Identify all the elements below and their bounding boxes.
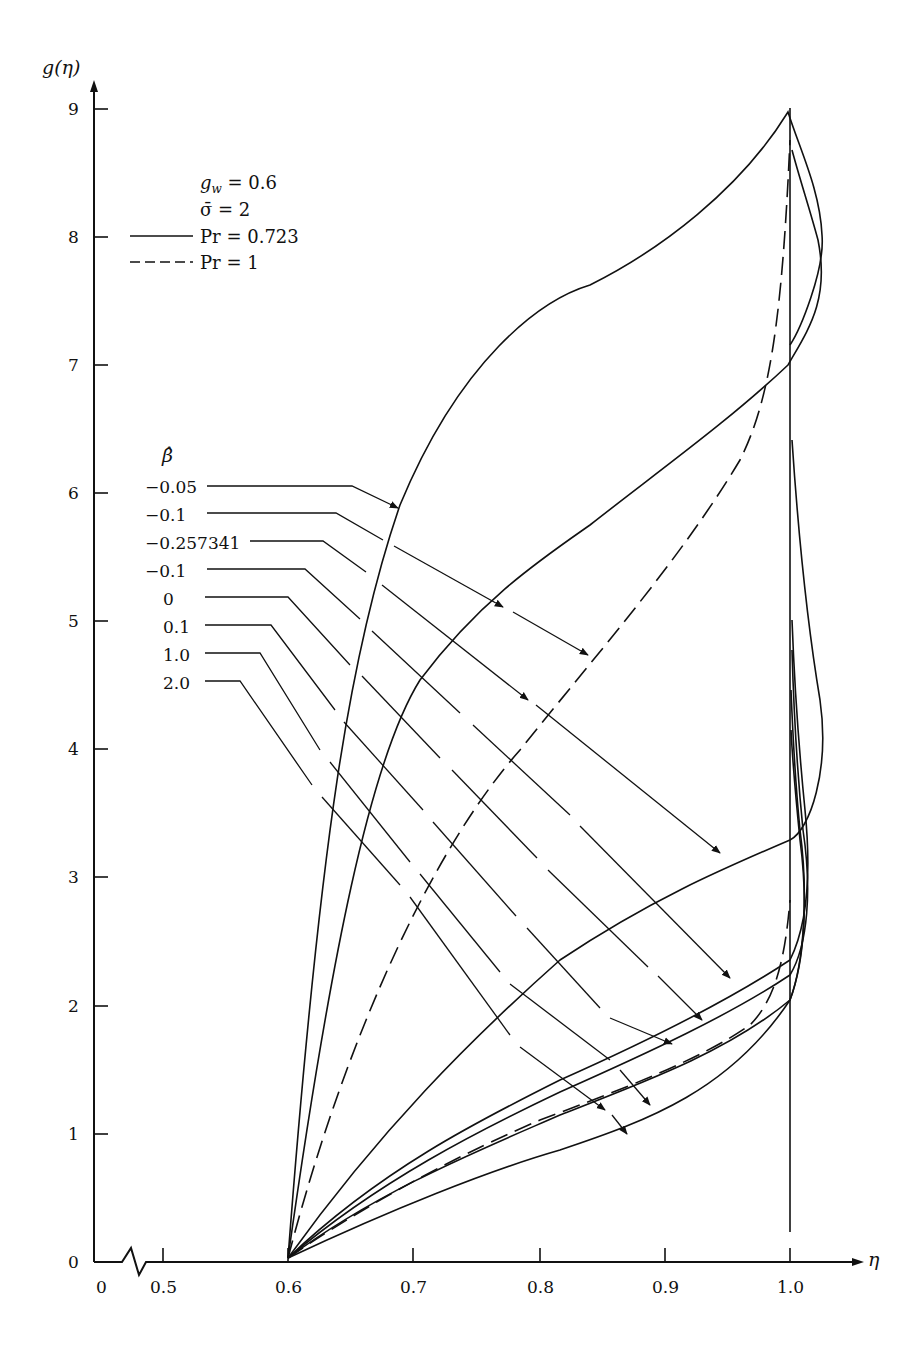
x-tick-0: 0 bbox=[96, 1277, 107, 1297]
y-tick-7: 7 bbox=[68, 355, 79, 375]
x-tick-0-8: 0.8 bbox=[527, 1277, 554, 1297]
curve-beta-20 bbox=[288, 730, 804, 1258]
y-tick-8: 8 bbox=[68, 227, 79, 247]
beta-label-7: 1.0 bbox=[163, 645, 190, 665]
x-axis-title: η bbox=[868, 1248, 880, 1270]
x-axis-arrow-icon bbox=[852, 1258, 864, 1266]
y-tick-3: 3 bbox=[68, 867, 79, 887]
legend-dashed-label: Pr = 1 bbox=[200, 252, 259, 273]
y-axis-arrow-icon bbox=[90, 80, 98, 92]
axis-break-icon bbox=[94, 1248, 855, 1275]
curve-beta-neg005 bbox=[288, 112, 822, 1258]
x-axis: η 0 0.5 0.6 0.7 0.8 0.9 1.0 bbox=[94, 1248, 880, 1297]
beta-label-6: 0.1 bbox=[163, 617, 190, 637]
legend: gw = 0.6 σ̄ = 2 Pr = 0.723 Pr = 1 bbox=[130, 172, 299, 273]
y-axis: g(η) 0 1 2 3 4 5 6 7 8 9 bbox=[42, 56, 108, 1272]
beta-label-3: −0.257341 bbox=[145, 533, 240, 553]
y-tick-0: 0 bbox=[68, 1252, 79, 1272]
curves bbox=[288, 112, 823, 1258]
beta-label-8: 2.0 bbox=[163, 673, 190, 693]
y-tick-9: 9 bbox=[68, 99, 79, 119]
leader-beta-neg0257 bbox=[536, 705, 720, 853]
beta-label-4: −0.1 bbox=[145, 561, 186, 581]
y-tick-2: 2 bbox=[68, 996, 79, 1016]
curve-beta-neg01 bbox=[288, 150, 821, 1258]
curve-beta-01 bbox=[288, 650, 808, 1258]
legend-gw: gw = 0.6 bbox=[200, 172, 277, 196]
y-tick-6: 6 bbox=[68, 483, 79, 503]
beta-title: β̂ bbox=[161, 444, 173, 466]
y-tick-1: 1 bbox=[68, 1124, 79, 1144]
beta-label-2: −0.1 bbox=[145, 505, 186, 525]
x-tick-0-9: 0.9 bbox=[652, 1277, 679, 1297]
beta-label-1: −0.05 bbox=[145, 477, 197, 497]
x-tick-0-6: 0.6 bbox=[275, 1277, 302, 1297]
leader-beta-neg01b bbox=[580, 826, 730, 978]
legend-solid-label: Pr = 0.723 bbox=[200, 226, 299, 247]
leader-beta-neg005 bbox=[207, 486, 398, 508]
leader-beta-0 bbox=[658, 976, 702, 1020]
y-tick-4: 4 bbox=[68, 739, 79, 759]
y-axis-title: g(η) bbox=[42, 56, 80, 78]
chart-figure: g(η) 0 1 2 3 4 5 6 7 8 9 η bbox=[0, 0, 905, 1345]
x-tick-0-5: 0.5 bbox=[150, 1277, 177, 1297]
legend-sigma: σ̄ = 2 bbox=[200, 199, 250, 220]
leader-beta-neg01 bbox=[394, 546, 503, 607]
beta-label-5: 0 bbox=[163, 589, 174, 609]
x-tick-0-7: 0.7 bbox=[400, 1277, 427, 1297]
y-tick-5: 5 bbox=[68, 611, 79, 631]
x-tick-1-0: 1.0 bbox=[777, 1277, 804, 1297]
